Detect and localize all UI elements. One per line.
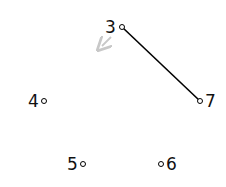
node-7[interactable]: 7 bbox=[198, 91, 216, 111]
node-7-point[interactable] bbox=[198, 99, 203, 104]
node-6-point[interactable] bbox=[159, 162, 164, 167]
edge-3-7 bbox=[122, 27, 200, 101]
node-4-point[interactable] bbox=[42, 99, 47, 104]
diagram-canvas: 3 4 5 6 7 bbox=[0, 0, 226, 187]
node-4-label: 4 bbox=[28, 91, 39, 111]
node-7-label: 7 bbox=[205, 91, 216, 111]
node-3[interactable]: 3 bbox=[105, 17, 125, 37]
arrow-icon bbox=[102, 37, 111, 46]
node-5-label: 5 bbox=[67, 154, 78, 174]
node-4[interactable]: 4 bbox=[28, 91, 47, 111]
node-3-point[interactable] bbox=[120, 25, 125, 30]
node-3-label: 3 bbox=[105, 17, 116, 37]
node-6[interactable]: 6 bbox=[159, 154, 177, 174]
node-5[interactable]: 5 bbox=[67, 154, 86, 174]
node-6-label: 6 bbox=[166, 154, 177, 174]
node-5-point[interactable] bbox=[81, 162, 86, 167]
